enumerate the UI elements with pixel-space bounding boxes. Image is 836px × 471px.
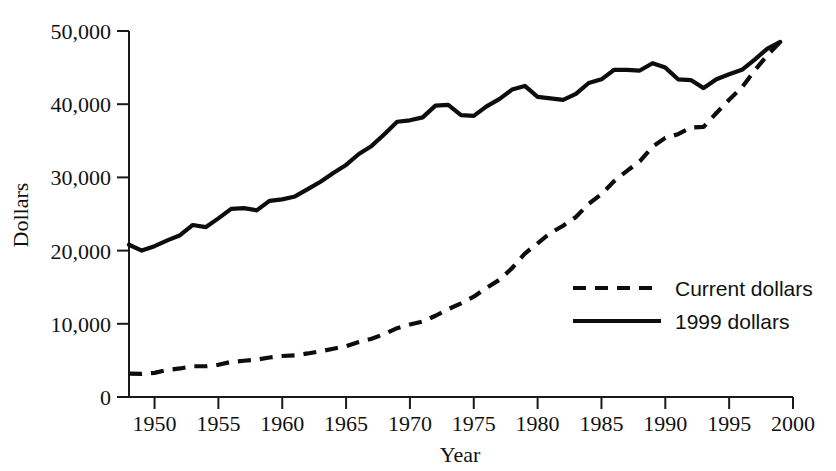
x-tick-label: 1985 [579,411,623,436]
x-tick-label: 1965 [324,411,368,436]
y-tick-label: 20,000 [51,239,112,264]
x-tick-label: 1960 [260,411,304,436]
x-tick-label: 1950 [133,411,177,436]
plot-axes [129,31,793,397]
x-tick-label: 1995 [707,411,751,436]
x-axis-title: Year [440,442,481,467]
y-tick-label: 50,000 [51,19,112,44]
x-axis-tick-labels: 1950195519601965197019751980198519901995… [133,411,815,436]
x-tick-label: 1955 [196,411,240,436]
chart-figure: 010,00020,00030,00040,00050,000 19501955… [0,0,836,471]
line-chart-canvas: 010,00020,00030,00040,00050,000 19501955… [0,0,836,471]
y-tick-label: 10,000 [51,312,112,337]
y-axis-tick-labels: 010,00020,00030,00040,00050,000 [51,19,112,410]
x-tick-label: 1980 [516,411,560,436]
x-tick-label: 2000 [771,411,815,436]
y-tick-label: 40,000 [51,92,112,117]
x-tick-label: 1975 [452,411,496,436]
x-tick-label: 1990 [643,411,687,436]
legend-label: Current dollars [675,277,813,300]
x-tick-label: 1970 [388,411,432,436]
chart-legend: Current dollars1999 dollars [573,277,813,333]
series-line-1999-dollars [129,42,780,251]
y-tick-label: 0 [100,385,111,410]
y-axis-title: Dollars [8,183,33,248]
legend-label: 1999 dollars [675,310,789,333]
y-tick-label: 30,000 [51,165,112,190]
